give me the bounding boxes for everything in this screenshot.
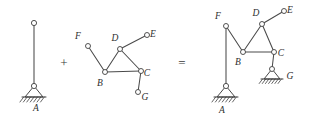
right-member-F-B [226, 26, 243, 52]
middle-label-B: B [97, 78, 103, 88]
middle-label-F: F [74, 31, 81, 41]
right-pinned-support-G-hatch [262, 79, 265, 84]
right-joint-D [260, 22, 265, 27]
right-joint-C [272, 50, 277, 55]
right-member-B-D [243, 24, 262, 52]
right-support-pin-A [223, 83, 228, 88]
right-pinned-support-G-hatch [269, 79, 272, 84]
equals-operator: = [178, 55, 185, 70]
middle-label-C: C [144, 68, 151, 78]
panel-combined-structure-panel: FDEBCGA [212, 5, 294, 115]
left-pinned-support-A-hatch [20, 97, 24, 102]
left-label-A: A [32, 103, 39, 113]
left-top-pin [31, 20, 36, 25]
right-joint-E [282, 9, 287, 14]
right-pinned-support-G-hatch [272, 79, 275, 84]
right-member-D-E [262, 11, 284, 24]
right-pinned-support-A-hatch [222, 97, 226, 102]
right-pinned-support-G-hatch [275, 79, 278, 84]
middle-label-G: G [142, 92, 149, 102]
left-pinned-support-A-hatch [30, 97, 34, 102]
middle-joint-C [139, 69, 144, 74]
left-pinned-support-A-hatch [27, 97, 31, 102]
right-pinned-support-A-hatch [215, 97, 219, 102]
left-pinned-support-A-hatch [37, 97, 41, 102]
left-pinned-support-A-hatch [23, 97, 27, 102]
right-member-D-C [262, 24, 274, 52]
right-pinned-support-A-hatch [212, 97, 216, 102]
middle-joint-F [86, 44, 91, 49]
middle-label-E: E [149, 29, 156, 39]
panel-frame-assembly-panel: FDEBCG [74, 29, 156, 102]
right-pinned-support-G-hatch [259, 79, 262, 84]
right-label-E: E [286, 5, 293, 15]
structural-decomposition-figure: AFDEBCGFDEBCGA+= [0, 0, 309, 119]
middle-member-F-B [88, 46, 105, 72]
right-joint-F [224, 24, 229, 29]
right-pinned-support-A-hatch [219, 97, 223, 102]
right-support-pin-G [270, 67, 275, 72]
right-label-A: A [218, 105, 225, 115]
middle-member-D-E [120, 35, 147, 49]
plus-operator: + [60, 55, 67, 70]
right-label-C: C [278, 48, 285, 58]
right-pinned-support-G-hatch [278, 79, 281, 84]
right-pinned-support-G-hatch [265, 79, 268, 84]
figure-canvas: AFDEBCGFDEBCGA+= [0, 0, 309, 119]
right-joint-B [241, 50, 246, 55]
left-pinned-support-A-hatch [34, 97, 38, 102]
right-label-G: G [287, 71, 294, 81]
right-label-F: F [214, 11, 221, 21]
right-pinned-support-A-hatch [229, 97, 233, 102]
right-label-D: D [252, 8, 260, 18]
right-label-B: B [235, 57, 241, 67]
right-pinned-support-A-hatch [233, 97, 237, 102]
middle-joint-B [103, 70, 108, 75]
middle-member-B-C [105, 71, 141, 72]
middle-joint-D [118, 47, 123, 52]
middle-label-D: D [111, 33, 119, 43]
right-pinned-support-A-hatch [226, 97, 230, 102]
middle-member-D-C [120, 49, 141, 71]
left-pinned-support-A-hatch [41, 97, 45, 102]
middle-member-C-G [138, 71, 141, 92]
left-support-pin-A [31, 83, 36, 88]
panel-vertical-member-panel: A [20, 20, 46, 113]
middle-member-B-D [105, 49, 120, 72]
middle-joint-E [145, 33, 150, 38]
middle-joint-G [136, 90, 141, 95]
